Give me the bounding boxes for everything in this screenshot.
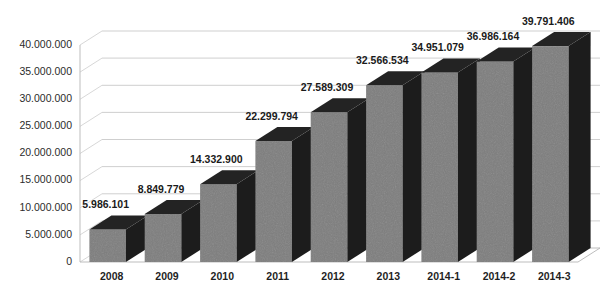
y-tick-label: 10.000.000 — [19, 201, 72, 213]
y-tick-label: 5.000.000 — [25, 228, 72, 240]
bar-front-face — [145, 214, 182, 262]
bar-column — [145, 200, 204, 262]
y-tick-label: 0 — [66, 255, 72, 267]
chart-canvas: 05.000.00010.000.00015.000.00020.000.000… — [0, 0, 612, 297]
category-label: 2008 — [100, 270, 124, 282]
bar-value-label: 36.986.164 — [467, 30, 520, 42]
bar-front-face — [255, 141, 292, 262]
bar-value-label: 5.986.101 — [82, 198, 129, 210]
bar-front-face — [477, 61, 514, 262]
category-label: 2014-1 — [427, 270, 460, 282]
bar-side-face — [292, 127, 314, 262]
chart-bars — [89, 32, 590, 262]
bar-front-face — [532, 46, 569, 262]
category-label: 2014-2 — [483, 270, 516, 282]
y-axis-tick-labels: 05.000.00010.000.00015.000.00020.000.000… — [19, 38, 72, 267]
gridline-depth-6 — [80, 85, 102, 99]
bar-front-face — [89, 230, 126, 263]
category-label: 2009 — [155, 270, 179, 282]
bar-front-face — [311, 112, 348, 262]
y-tick-label: 25.000.000 — [19, 119, 72, 131]
gridline-depth-4 — [80, 140, 102, 154]
bar-value-label: 34.951.079 — [411, 41, 464, 53]
bar-side-face — [513, 47, 535, 262]
bar-value-label: 39.791.406 — [522, 15, 575, 27]
y-tick-label: 15.000.000 — [19, 173, 72, 185]
gridline-depth-7 — [80, 58, 102, 72]
bar-side-face — [569, 32, 591, 262]
bar-column — [255, 127, 314, 262]
bar-value-label: 14.332.900 — [190, 153, 243, 165]
bar-front-face — [200, 184, 237, 262]
bar-side-face — [347, 98, 369, 262]
category-label: 2014-3 — [538, 270, 571, 282]
gridline-depth-8 — [80, 31, 102, 45]
bar-value-label: 32.566.534 — [356, 54, 409, 66]
x-axis-category-labels: 2008200920102011201220132014-12014-22014… — [100, 270, 571, 282]
bar-column — [89, 216, 147, 263]
bar-side-face — [237, 170, 259, 262]
category-label: 2012 — [321, 270, 345, 282]
bar-column — [311, 98, 370, 262]
gridline-depth-3 — [80, 167, 102, 181]
bar-value-label: 27.589.309 — [301, 81, 354, 93]
y-tick-label: 35.000.000 — [19, 65, 72, 77]
y-tick-label: 30.000.000 — [19, 92, 72, 104]
bar-chart: 05.000.00010.000.00015.000.00020.000.000… — [0, 0, 612, 297]
category-label: 2011 — [266, 270, 289, 282]
y-tick-label: 20.000.000 — [19, 146, 72, 158]
bar-value-label: 22.299.794 — [245, 110, 298, 122]
gridline-depth-5 — [80, 112, 102, 126]
y-tick-label: 40.000.000 — [19, 38, 72, 50]
bar-column — [366, 71, 425, 262]
bar-column — [421, 58, 480, 262]
bar-column — [200, 170, 259, 262]
category-label: 2010 — [211, 270, 235, 282]
category-label: 2013 — [377, 270, 401, 282]
bar-value-label: 8.849.779 — [138, 183, 185, 195]
bar-front-face — [366, 85, 403, 262]
bar-column — [532, 32, 591, 262]
bar-side-face — [458, 58, 480, 262]
bar-column — [477, 47, 536, 262]
bar-side-face — [403, 71, 425, 262]
bar-front-face — [421, 72, 458, 262]
